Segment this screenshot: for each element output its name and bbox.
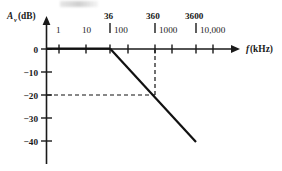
y-axis-group: 0 −10 −20 −30 −40 A v (dB) <box>6 11 52 164</box>
x-tick-label-36: 36 <box>104 11 114 21</box>
x-tick-label-360: 360 <box>146 11 160 21</box>
y-tick-label-0: 0 <box>33 45 38 55</box>
x-axis-title-unit: (kHz) <box>250 44 273 55</box>
x-axis-arrowhead <box>231 45 240 53</box>
y-axis-title: A v (dB) <box>6 11 36 23</box>
x-axis-title: f (kHz) <box>246 44 273 55</box>
x-tick-label-10: 10 <box>82 25 92 35</box>
y-axis-title-subscript: v <box>14 16 17 23</box>
y-tick-label-minus10: −10 <box>24 68 39 78</box>
x-tick-label-1000: 1000 <box>159 25 178 35</box>
y-tick-label-minus40: −40 <box>24 137 39 147</box>
y-tick-label-minus20: −20 <box>24 91 39 101</box>
x-tick-label-1: 1 <box>56 25 61 35</box>
bode-plot-svg: 0 −10 −20 −30 −40 A v (dB) <box>0 0 282 171</box>
x-tick-label-10000: 10,000 <box>200 25 226 35</box>
x-tick-label-3600: 3600 <box>185 11 204 21</box>
x-tick-label-100: 100 <box>114 25 128 35</box>
y-axis-arrowhead <box>43 16 51 25</box>
y-axis-title-unit: (dB) <box>18 11 36 22</box>
y-axis-title-main: A <box>6 11 13 21</box>
y-tick-label-minus30: −30 <box>24 114 39 124</box>
annotation-projection-lines <box>47 50 155 95</box>
bode-plot-figure: 0 −10 −20 −30 −40 A v (dB) <box>0 0 282 171</box>
